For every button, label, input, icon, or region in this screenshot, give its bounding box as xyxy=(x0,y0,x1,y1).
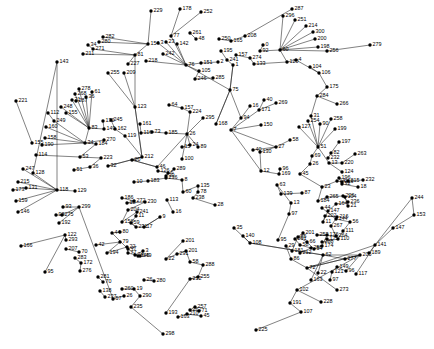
node-dot[interactable] xyxy=(274,101,277,104)
node-dot[interactable] xyxy=(185,132,188,135)
node-dot[interactable] xyxy=(239,116,242,119)
graph-node[interactable]: 178 xyxy=(178,5,191,11)
node-dot[interactable] xyxy=(83,141,86,144)
node-dot[interactable] xyxy=(88,165,91,168)
node-dot[interactable] xyxy=(171,210,174,213)
node-dot[interactable] xyxy=(325,49,328,52)
node-dot[interactable] xyxy=(77,205,80,208)
graph-node[interactable]: 16 xyxy=(248,102,258,108)
node-dot[interactable] xyxy=(99,156,102,159)
node-dot[interactable] xyxy=(217,37,220,40)
node-dot[interactable] xyxy=(133,253,136,256)
graph-node[interactable]: 211 xyxy=(81,50,94,56)
node-dot[interactable] xyxy=(110,231,113,234)
node-dot[interactable] xyxy=(391,226,394,229)
node-dot[interactable] xyxy=(191,196,194,199)
graph-node[interactable]: 9 xyxy=(158,213,165,219)
node-dot[interactable] xyxy=(252,62,255,65)
graph-node[interactable]: 277 xyxy=(343,255,356,261)
node-dot[interactable] xyxy=(305,266,308,269)
node-dot[interactable] xyxy=(259,123,262,126)
node-dot[interactable] xyxy=(361,178,364,181)
node-dot[interactable] xyxy=(225,58,228,61)
node-dot[interactable] xyxy=(193,77,196,80)
node-dot[interactable] xyxy=(257,108,260,111)
node-dot[interactable] xyxy=(74,99,77,102)
node-dot[interactable] xyxy=(138,122,141,125)
node-dot[interactable] xyxy=(305,240,308,243)
graph-node[interactable]: 216 xyxy=(335,213,348,219)
graph-node[interactable]: 10 xyxy=(132,178,142,184)
graph-node[interactable]: 113 xyxy=(165,196,178,202)
node-dot[interactable] xyxy=(214,122,217,125)
node-dot[interactable] xyxy=(248,56,251,59)
node-dot[interactable] xyxy=(320,206,323,209)
graph-node[interactable]: 195 xyxy=(219,47,232,53)
graph-node[interactable]: 166 xyxy=(19,242,32,248)
graph-node[interactable]: 133 xyxy=(252,60,265,66)
node-dot[interactable] xyxy=(97,40,100,43)
node-dot[interactable] xyxy=(197,309,200,312)
graph-node[interactable]: 76 xyxy=(184,61,194,67)
node-dot[interactable] xyxy=(120,196,123,199)
graph-node[interactable]: 246 xyxy=(193,75,206,81)
node-dot[interactable] xyxy=(274,145,277,148)
node-dot[interactable] xyxy=(276,238,279,241)
node-dot[interactable] xyxy=(199,61,202,64)
graph-node[interactable]: 149 xyxy=(102,125,115,131)
graph-node[interactable]: 192 xyxy=(57,219,70,225)
node-dot[interactable] xyxy=(106,164,109,167)
node-dot[interactable] xyxy=(216,60,219,63)
node-dot[interactable] xyxy=(231,63,234,66)
graph-node[interactable]: 22 xyxy=(316,269,326,275)
graph-node[interactable]: 40 xyxy=(262,96,272,102)
node-dot[interactable] xyxy=(55,60,58,63)
node-dot[interactable] xyxy=(180,106,183,109)
node-dot[interactable] xyxy=(373,243,376,246)
graph-node[interactable]: 184 xyxy=(94,140,107,146)
node-dot[interactable] xyxy=(333,127,336,130)
graph-node[interactable]: 26 xyxy=(308,160,318,166)
node-dot[interactable] xyxy=(285,60,288,63)
node-dot[interactable] xyxy=(258,49,261,52)
graph-node[interactable]: 168 xyxy=(214,120,227,126)
graph-node[interactable]: 34 xyxy=(83,139,93,145)
node-dot[interactable] xyxy=(188,110,191,113)
node-dot[interactable] xyxy=(294,58,297,61)
graph-node[interactable]: 131 xyxy=(24,184,37,190)
graph-node[interactable]: 215 xyxy=(16,178,29,184)
graph-node[interactable]: 252 xyxy=(199,8,212,14)
node-dot[interactable] xyxy=(319,300,322,303)
graph-node[interactable]: 300 xyxy=(311,28,324,34)
graph-node[interactable]: 63 xyxy=(275,181,285,187)
node-dot[interactable] xyxy=(140,155,143,158)
graph-node[interactable]: 13 xyxy=(327,159,337,165)
node-dot[interactable] xyxy=(188,260,191,263)
graph-node[interactable]: 200 xyxy=(313,35,326,41)
node-dot[interactable] xyxy=(290,249,293,252)
node-dot[interactable] xyxy=(24,186,27,189)
node-dot[interactable] xyxy=(327,161,330,164)
graph-node[interactable]: 45 xyxy=(298,170,308,176)
graph-node[interactable]: 86 xyxy=(289,255,299,261)
node-dot[interactable] xyxy=(325,237,328,240)
node-dot[interactable] xyxy=(134,225,137,228)
node-dot[interactable] xyxy=(354,272,357,275)
graph-node[interactable]: 225 xyxy=(254,326,267,332)
graph-node[interactable]: 238 xyxy=(191,194,204,200)
node-dot[interactable] xyxy=(334,202,337,205)
node-dot[interactable] xyxy=(289,257,292,260)
graph-node[interactable]: 295 xyxy=(201,114,214,120)
node-dot[interactable] xyxy=(21,167,24,170)
graph-node[interactable]: 280 xyxy=(152,277,165,283)
node-dot[interactable] xyxy=(96,275,99,278)
node-dot[interactable] xyxy=(181,190,184,193)
node-dot[interactable] xyxy=(325,85,328,88)
graph-node[interactable]: 183 xyxy=(146,177,159,183)
node-dot[interactable] xyxy=(316,45,319,48)
graph-node[interactable]: 260 xyxy=(120,285,133,291)
graph-node[interactable]: 108 xyxy=(248,239,261,245)
graph-node[interactable]: 42 xyxy=(94,241,104,247)
graph-node[interactable]: 197 xyxy=(337,138,350,144)
graph-node[interactable]: 147 xyxy=(391,224,404,230)
